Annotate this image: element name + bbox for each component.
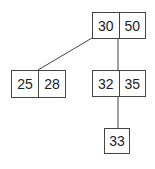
edge-root-left (38, 38, 92, 70)
node-middle: 32 35 (92, 70, 146, 97)
node-key: 35 (119, 71, 146, 96)
node-key: 32 (93, 71, 119, 96)
node-key: 33 (105, 129, 129, 153)
node-key: 50 (119, 13, 146, 38)
node-root: 30 50 (92, 12, 146, 39)
node-key: 30 (93, 13, 119, 38)
node-key: 28 (38, 71, 65, 97)
node-left: 25 28 (11, 70, 66, 98)
node-key: 25 (12, 71, 38, 97)
node-bottom: 33 (104, 128, 130, 154)
